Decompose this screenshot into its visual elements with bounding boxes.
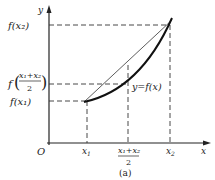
- x-axis-label: x: [201, 146, 206, 156]
- convex-function-diagram: y f(x₂) f ( x₁+x₂ 2 ) f(x₁) O x1 x₁+x₂ 2…: [0, 0, 215, 180]
- x1-label: x1: [82, 146, 91, 157]
- y-axis-arrow-icon: [47, 5, 52, 13]
- fx1-label: f(x₁): [9, 96, 31, 107]
- curve-label: y=f(x): [131, 81, 162, 92]
- fmid-denominator: 2: [27, 84, 32, 93]
- x-axis-arrow-icon: [203, 141, 211, 146]
- y-axis-label: y: [37, 5, 44, 15]
- mid-numerator: x₁+x₂: [118, 146, 140, 155]
- fmid-f-label: f: [7, 78, 14, 91]
- x2-label: x2: [166, 146, 175, 157]
- fmid-numerator: x₁+x₂: [19, 71, 41, 80]
- fx2-label: f(x₂): [7, 20, 29, 31]
- fmid-paren-close: ): [41, 73, 47, 92]
- mid-denominator: 2: [126, 158, 131, 167]
- origin-label: O: [37, 146, 45, 157]
- figure-caption: (a): [119, 168, 131, 178]
